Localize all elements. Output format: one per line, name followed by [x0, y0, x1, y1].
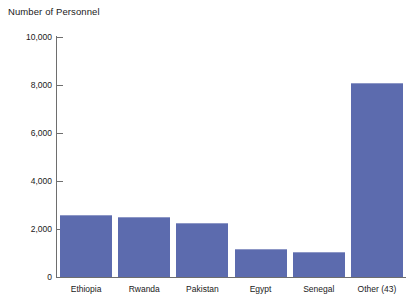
bar-slot [351, 37, 403, 277]
y-axis-labels: 02,0004,0006,0008,00010,000 [0, 0, 52, 308]
bar[interactable] [118, 217, 170, 277]
y-axis-tick-label: 10,000 [4, 32, 52, 42]
x-axis-tick-label: Other (43) [348, 284, 406, 294]
y-axis-tick-label: 8,000 [4, 80, 52, 90]
bar[interactable] [235, 249, 287, 277]
y-axis-tick-label: 0 [4, 272, 52, 282]
bar-chart: Number of Personnel 02,0004,0006,0008,00… [0, 0, 414, 308]
bar-slot [235, 37, 287, 277]
x-axis-line [56, 277, 406, 278]
x-axis-tick-label: Senegal [290, 284, 348, 294]
y-axis-tick-label: 6,000 [4, 128, 52, 138]
bar-slot [118, 37, 170, 277]
y-axis-tick [57, 277, 63, 278]
bar[interactable] [60, 215, 112, 277]
bar-slot [60, 37, 112, 277]
plot-area [57, 37, 406, 277]
y-axis-tick-label: 4,000 [4, 176, 52, 186]
bar[interactable] [176, 223, 228, 277]
bar[interactable] [293, 252, 345, 277]
x-axis-tick-label: Rwanda [115, 284, 173, 294]
x-axis-tick-label: Egypt [232, 284, 290, 294]
bar[interactable] [351, 83, 403, 277]
bar-slot [293, 37, 345, 277]
x-axis-tick-label: Pakistan [173, 284, 231, 294]
y-axis-tick-label: 2,000 [4, 224, 52, 234]
bar-slot [176, 37, 228, 277]
x-axis-tick-label: Ethiopia [57, 284, 115, 294]
